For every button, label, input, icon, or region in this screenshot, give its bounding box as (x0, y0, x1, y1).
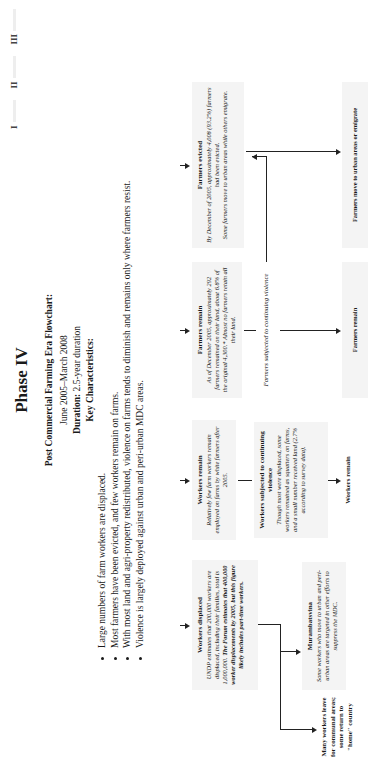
workers-displaced-box: Workers displaced UNDP estimates that 20… (192, 560, 258, 690)
box-body: Some farmers move to urban areas while o… (221, 91, 228, 239)
workers-leave-text: Many workers leave for communal areas; s… (320, 694, 354, 760)
farmers-violence-text: Farmers subjected to continuing violence (262, 262, 271, 398)
characteristic-item: With most land and agri-property redistr… (121, 178, 134, 648)
arrow-down-icon (185, 163, 190, 169)
arrow-down-icon (336, 328, 341, 334)
connector-line (280, 729, 314, 730)
duration: Duration: 2.5-year duration (72, 0, 82, 760)
box-heading: Workers remain (196, 425, 204, 535)
connector-line (280, 624, 281, 730)
arrow-down-icon (185, 478, 190, 484)
murambatsvina-box: Murambatsvina Some workers who move to u… (302, 562, 346, 690)
box-heading: Farmers evicted (196, 87, 204, 243)
duration-value: 2.5-year duration (72, 326, 82, 391)
characteristic-item: Most farmers have been evicted, and few … (109, 178, 122, 648)
characteristic-item: Large numbers of farm workers are displa… (96, 178, 109, 648)
arrow-down-icon (185, 328, 190, 334)
duration-label: Duration: (72, 394, 82, 434)
rotated-page: I II III IV Phase IV Post Commercial Far… (0, 0, 379, 760)
workers-remain-box: Workers remain Relatively few farm worke… (192, 420, 236, 540)
farmers-evicted-box: Farmers evicted By December of 2005, app… (192, 82, 244, 248)
arrow-down-icon (296, 649, 301, 655)
box-heading: Murambatsvina (306, 567, 314, 685)
workers-remain-bottom: Workers remain (344, 430, 353, 530)
box-body: Some workers who move to urban and peri-… (315, 570, 338, 682)
arrow-down-icon (336, 478, 341, 484)
farmers-move: Farmers move to urban areas or emigrate (351, 108, 358, 222)
farmers-remain-bottom: Farmers remain (351, 308, 358, 352)
box-body: Though most were displaced, some workers… (275, 428, 306, 532)
box-heading: Workers displaced (196, 565, 204, 685)
box-body: As of December 2005, approximately 292 f… (205, 268, 236, 392)
farmers-move-box: Farmers move to urban areas or emigrate (342, 82, 368, 248)
box-heading: Workers subjected to continuing violence (258, 427, 274, 533)
arrow-down-icon (336, 149, 341, 155)
connector-line (266, 157, 267, 262)
arrow-up-icon (252, 154, 257, 160)
characteristic-item: Violence is largely deployed against urb… (134, 178, 147, 648)
box-body: By December of 2005, approximately 4,008… (205, 87, 220, 242)
arrow-down-icon (185, 623, 190, 629)
box-body: Relatively few farm workers remain emplo… (205, 427, 228, 534)
connector-line (244, 330, 256, 331)
box-heading: Farmers remain (196, 267, 204, 393)
characteristics-list: Large numbers of farm workers are displa… (96, 178, 146, 660)
connector-line (280, 330, 338, 331)
arrow-down-icon (312, 727, 317, 733)
connector-line (238, 480, 252, 481)
farmers-remain-bottom-box: Farmers remain (342, 262, 368, 398)
page-title: Phase IV (12, 0, 32, 760)
workers-violence-box: Workers subjected to continuing violence… (254, 422, 328, 538)
farmers-remain-box: Farmers remain As of December 2005, appr… (192, 262, 242, 398)
flowchart-title: Post Commercial Farming Era Flowchart: (44, 0, 54, 760)
connector-line (246, 151, 338, 152)
date-range: June 2005–March 2008 (59, 0, 69, 760)
connector-line (258, 624, 280, 625)
key-characteristics-heading: Key Characteristics: (85, 0, 95, 760)
